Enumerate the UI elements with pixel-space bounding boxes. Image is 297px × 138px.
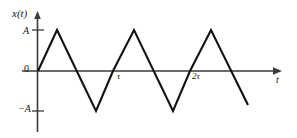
- x-tick-label-tau: τ: [117, 72, 120, 81]
- waveform-figure: x(t) t A 0 −A τ 2τ: [0, 0, 297, 138]
- x-axis-label: t: [276, 75, 279, 85]
- x-tick-label-2tau: 2τ: [192, 72, 200, 81]
- y-tick-label-zero: 0: [24, 64, 29, 74]
- y-tick-label-a: A: [23, 26, 29, 36]
- y-axis-label: x(t): [12, 8, 27, 19]
- plot-canvas: [0, 0, 297, 138]
- y-tick-label-negative-a: −A: [18, 104, 31, 114]
